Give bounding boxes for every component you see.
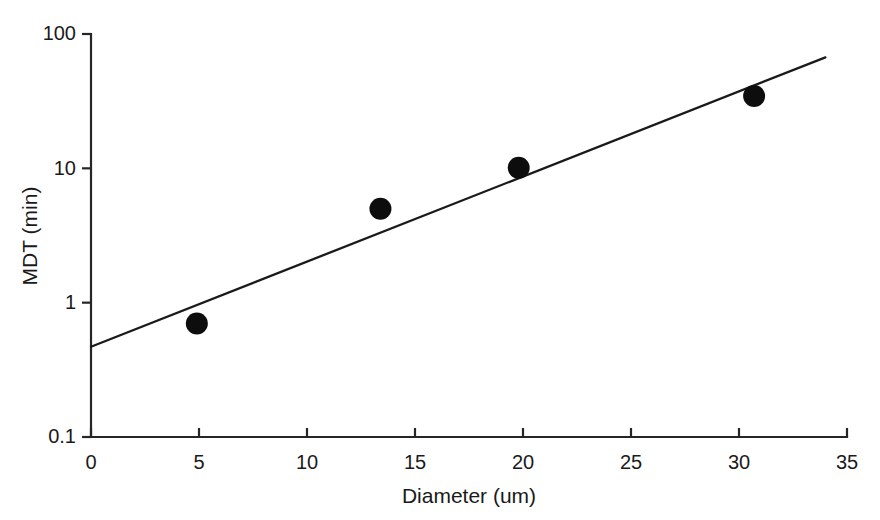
x-tick-label: 25 bbox=[620, 451, 642, 473]
data-point-marker bbox=[369, 198, 391, 220]
x-tick-label: 35 bbox=[836, 451, 858, 473]
y-tick-label: 10 bbox=[54, 157, 76, 179]
x-tick-label: 20 bbox=[512, 451, 534, 473]
data-point-marker bbox=[743, 85, 765, 107]
y-axis-title: MDT (min) bbox=[18, 187, 41, 286]
plot-background bbox=[0, 0, 880, 520]
y-tick-label: 0.1 bbox=[48, 425, 76, 447]
x-tick-label: 5 bbox=[193, 451, 204, 473]
y-tick-label: 1 bbox=[65, 291, 76, 313]
scatter-plot-svg: 0.1110100 05101520253035 Diameter (um) M… bbox=[0, 0, 880, 520]
x-tick-label: 0 bbox=[85, 451, 96, 473]
data-point-marker bbox=[186, 312, 208, 334]
x-tick-label: 30 bbox=[728, 451, 750, 473]
x-tick-label: 15 bbox=[404, 451, 426, 473]
x-axis-title: Diameter (um) bbox=[402, 484, 536, 507]
data-point-marker bbox=[508, 157, 530, 179]
y-tick-label: 100 bbox=[43, 22, 76, 44]
chart-figure: 0.1110100 05101520253035 Diameter (um) M… bbox=[0, 0, 880, 520]
x-tick-label: 10 bbox=[296, 451, 318, 473]
